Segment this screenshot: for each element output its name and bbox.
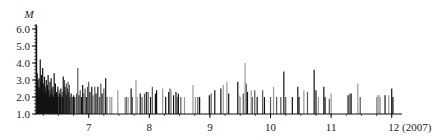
y-tick-label: 6.0: [16, 23, 30, 35]
y-axis-title: M: [23, 8, 34, 20]
x-tick-label: 8: [147, 121, 153, 133]
x-tick-label: 12 (2007): [388, 121, 431, 134]
magnitude-spikes: [37, 26, 393, 114]
earthquake-magnitude-time-chart: 789101112 (2007) 1.02.03.04.05.06.0 M: [0, 0, 440, 140]
x-tick-label: 11: [326, 121, 337, 133]
y-tick-label: 2.0: [16, 91, 30, 103]
y-tick-label: 5.0: [16, 40, 30, 52]
y-tick-label: 4.0: [16, 57, 30, 69]
x-tick-label: 10: [265, 121, 277, 133]
y-axis-minor-ticks: [34, 26, 36, 114]
y-tick-label: 3.0: [16, 74, 30, 86]
x-tick-label: 9: [207, 121, 213, 133]
y-tick-label: 1.0: [16, 108, 30, 120]
x-axis-ticks: 789101112 (2007): [43, 114, 431, 134]
x-tick-label: 7: [86, 121, 92, 133]
y-axis-ticks: 1.02.03.04.05.06.0: [16, 23, 36, 120]
